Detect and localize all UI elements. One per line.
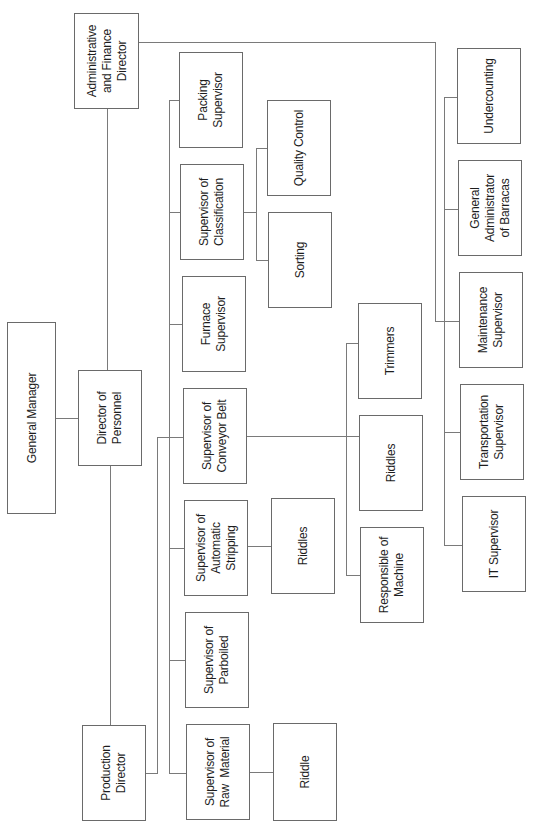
node-furnace-supervisor: Furnace Supervisor bbox=[182, 276, 246, 372]
node-label: Supervisor of Raw Material bbox=[203, 737, 233, 808]
connector-right-column-spine bbox=[444, 97, 445, 546]
node-general-manager: General Manager bbox=[7, 322, 56, 514]
connector-stripping bbox=[169, 548, 184, 549]
node-trimmers: Trimmers bbox=[358, 303, 422, 399]
node-label: IT Supervisor bbox=[487, 510, 502, 579]
node-supervisor-classification: Supervisor of Classification bbox=[180, 164, 244, 260]
node-label: General Administrator of Barracas bbox=[468, 174, 513, 242]
node-riddles-conveyor: Riddles bbox=[359, 415, 423, 511]
node-responsible-of-machine: Responsible of Machine bbox=[360, 527, 424, 623]
connector-gm-to-personnel bbox=[55, 418, 78, 419]
node-general-administrator-barracas: General Administrator of Barracas bbox=[458, 160, 522, 256]
node-label: Maintenance Supervisor bbox=[476, 287, 506, 354]
connector-parboiled bbox=[169, 660, 185, 661]
node-label: Supervisor of Parboiled bbox=[202, 626, 232, 694]
connector-admin-to-right-column bbox=[139, 42, 436, 43]
connector-responsible bbox=[346, 575, 360, 576]
node-label: Supervisor of Conveyor Belt bbox=[200, 400, 230, 473]
node-label: Quality Control bbox=[292, 110, 307, 186]
connector-sorting bbox=[256, 260, 268, 261]
connector-supervisor-spine bbox=[169, 100, 170, 773]
connector-classification-out bbox=[244, 212, 256, 213]
node-supervisor-conveyor-belt: Supervisor of Conveyor Belt bbox=[183, 388, 247, 484]
node-transportation-supervisor: Transportation Supervisor bbox=[460, 384, 524, 480]
node-supervisor-automatic-stripping: Supervisor of Automatic Stripping bbox=[184, 500, 248, 596]
node-label: Riddles bbox=[384, 444, 399, 483]
connector-it bbox=[444, 545, 462, 546]
node-quality-control: Quality Control bbox=[267, 100, 331, 196]
node-undercounting: Undercounting bbox=[457, 48, 521, 144]
node-label: Undercounting bbox=[482, 58, 497, 133]
connector-transportation bbox=[444, 432, 460, 433]
node-label: Production Director bbox=[99, 745, 129, 800]
connector-classification-spine bbox=[256, 148, 257, 261]
connector-undercounting bbox=[444, 97, 457, 98]
node-packing-supervisor: Packing Supervisor bbox=[179, 52, 243, 148]
connector-barracas bbox=[444, 209, 458, 210]
node-label: Trimmers bbox=[383, 327, 398, 376]
connector-raw-riddle bbox=[250, 772, 273, 773]
connector-conveyor-spine bbox=[346, 343, 347, 576]
connector-admin-to-personnel bbox=[107, 109, 108, 370]
node-label: Supervisor of Automatic Stripping bbox=[194, 514, 239, 582]
node-label: Riddle bbox=[298, 756, 313, 789]
connector-admin-right-drop bbox=[435, 42, 436, 322]
connector-personnel-to-production bbox=[110, 465, 111, 725]
node-label: Supervisor of Classification bbox=[197, 178, 227, 246]
node-label: Transportation Supervisor bbox=[477, 395, 507, 469]
connector-conveyor-out bbox=[247, 436, 359, 437]
node-riddle-raw-material: Riddle bbox=[273, 723, 337, 821]
node-label: Responsible of Machine bbox=[377, 537, 407, 614]
node-supervisor-raw-material: Supervisor of Raw Material bbox=[186, 724, 250, 820]
node-admin-finance-director: Administrative and Finance Director bbox=[74, 13, 139, 109]
connector-trimmers bbox=[346, 343, 358, 344]
node-label: Director of Personnel bbox=[95, 391, 125, 444]
node-it-supervisor: IT Supervisor bbox=[462, 496, 526, 592]
connector-raw-material bbox=[169, 773, 186, 774]
node-maintenance-supervisor: Maintenance Supervisor bbox=[459, 272, 523, 368]
node-sorting: Sorting bbox=[268, 212, 332, 308]
connector-admin-to-maintenance bbox=[435, 321, 459, 322]
connector-quality-control bbox=[256, 148, 267, 149]
node-label: General Manager bbox=[24, 373, 39, 463]
connector-production-spine bbox=[157, 437, 158, 774]
node-label: Riddles bbox=[296, 527, 311, 566]
connector-packing bbox=[169, 100, 179, 101]
node-label: Administrative and Finance Director bbox=[84, 25, 129, 98]
node-label: Packing Supervisor bbox=[196, 72, 226, 127]
connector-classification bbox=[169, 212, 180, 213]
node-label: Furnace Supervisor bbox=[199, 296, 229, 351]
node-supervisor-parboiled: Supervisor of Parboiled bbox=[185, 612, 249, 708]
node-label: Sorting bbox=[293, 242, 308, 279]
node-director-of-personnel: Director of Personnel bbox=[78, 370, 142, 466]
node-riddles-stripping: Riddles bbox=[271, 498, 335, 594]
connector-furnace bbox=[169, 324, 182, 325]
connector-stripping-riddles bbox=[248, 546, 271, 547]
node-production-director: Production Director bbox=[82, 725, 146, 821]
